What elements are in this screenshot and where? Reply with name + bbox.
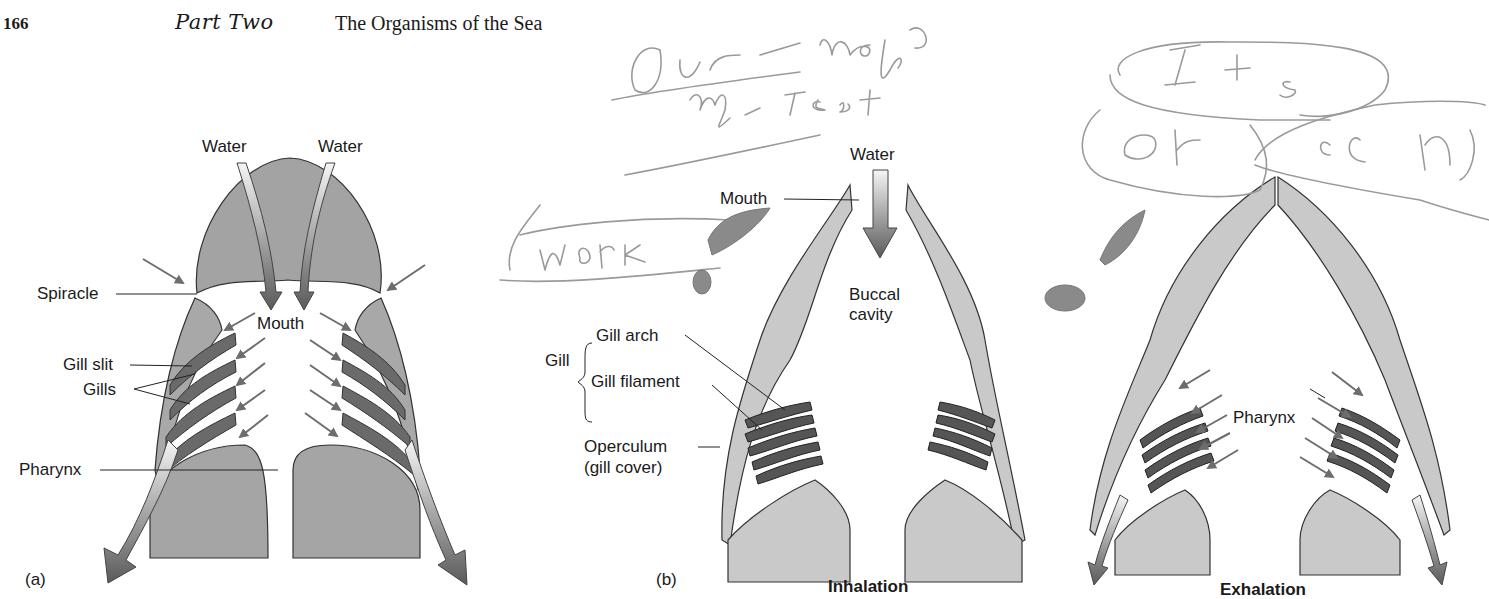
label-gill-filament: Gill filament <box>591 372 680 392</box>
label-buccal-2: cavity <box>849 305 892 325</box>
label-buccal-1: Buccal <box>849 285 900 305</box>
panel-b-inhalation-gills <box>745 402 995 484</box>
label-operculum-2: (gill cover) <box>584 458 662 478</box>
caption-exhalation: Exhalation <box>1220 580 1306 599</box>
label-spiracle: Spiracle <box>37 284 98 304</box>
label-water-b: Water <box>850 145 895 165</box>
label-gill: Gill <box>545 351 570 371</box>
label-pharynx-a: Pharynx <box>19 460 81 480</box>
label-mouth-a: Mouth <box>257 314 304 334</box>
label-mouth-b: Mouth <box>720 189 767 209</box>
panel-b-exhalation <box>1090 177 1450 575</box>
label-water-right: Water <box>318 137 363 157</box>
panel-b-water-arrow <box>863 170 897 258</box>
label-gills: Gills <box>83 380 116 400</box>
panel-b-label: (b) <box>656 570 677 590</box>
label-gill-slit: Gill slit <box>63 355 113 375</box>
caption-inhalation: Inhalation <box>828 577 908 597</box>
label-gill-arch: Gill arch <box>596 326 658 346</box>
label-pharynx-b: Pharynx <box>1233 408 1295 428</box>
gill-diagram-artwork <box>0 0 1489 599</box>
label-operculum-1: Operculum <box>584 437 667 457</box>
panel-a-label: (a) <box>25 570 46 590</box>
label-water-left: Water <box>202 137 247 157</box>
gill-brace <box>578 343 592 422</box>
